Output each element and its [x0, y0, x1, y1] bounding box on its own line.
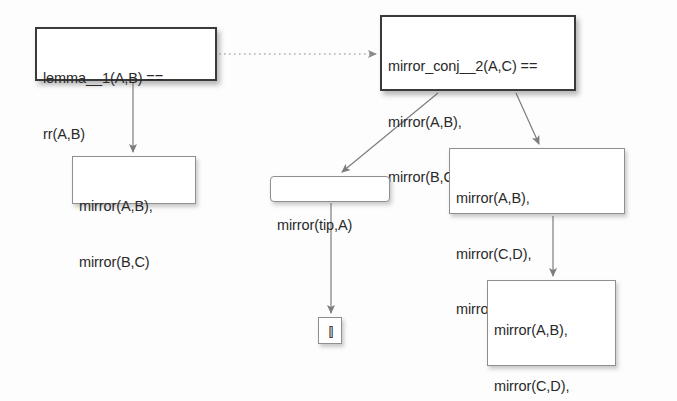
- node-right-goal-line-2: mirror(C,D),: [456, 245, 618, 264]
- node-mirror-conj-2-line-1: mirror_conj__2(A,C) ==: [388, 57, 568, 76]
- node-mirror-tip-a[interactable]: mirror(tip,A): [270, 176, 390, 202]
- diagram-canvas: lemma__1(A,B) == rr(A,B) mirror_conj__2(…: [0, 0, 677, 401]
- node-mirror-conj-2[interactable]: mirror_conj__2(A,C) == mirror(A,B), mirr…: [380, 15, 576, 91]
- node-empty-clause[interactable]: []: [318, 317, 342, 344]
- node-lemma-1-line-2: rr(A,B): [43, 125, 209, 144]
- node-left-goal[interactable]: mirror(A,B), mirror(B,C): [72, 156, 196, 204]
- node-bottom-goal-line-1: mirror(A,B),: [494, 321, 609, 340]
- node-left-goal-line-2: mirror(B,C): [79, 253, 189, 272]
- node-mirror-tip-a-line-1: mirror(tip,A): [277, 216, 383, 235]
- empty-clause-label: []: [328, 324, 331, 337]
- node-bottom-goal-line-2: mirror(C,D),: [494, 377, 609, 396]
- node-lemma-1-line-1: lemma__1(A,B) ==: [43, 69, 209, 88]
- node-right-goal[interactable]: mirror(A,B), mirror(C,D), mirror(tree(D,…: [449, 148, 625, 214]
- node-mirror-conj-2-line-2: mirror(A,B),: [388, 113, 568, 132]
- node-left-goal-line-1: mirror(A,B),: [79, 197, 189, 216]
- node-bottom-goal[interactable]: mirror(A,B), mirror(C,D), mirror(D,E), m…: [487, 280, 616, 366]
- node-lemma-1[interactable]: lemma__1(A,B) == rr(A,B): [35, 27, 217, 81]
- node-right-goal-line-1: mirror(A,B),: [456, 189, 618, 208]
